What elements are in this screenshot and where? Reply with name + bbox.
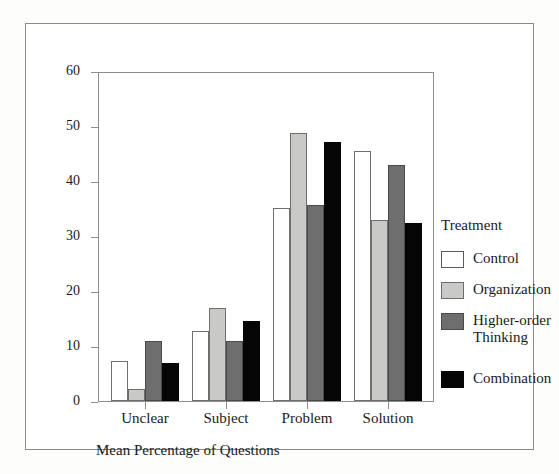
- legend-label: Higher-order Thinking: [473, 312, 559, 346]
- plot-top-rule: [98, 72, 434, 73]
- figure-caption: Mean Percentage of Questions: [96, 442, 280, 459]
- y-tick: 60: [91, 72, 98, 73]
- legend-entries: ControlOrganizationHigher-order Thinking…: [441, 250, 559, 388]
- legend-label: Organization: [473, 281, 551, 298]
- y-tick-label: 10: [66, 338, 80, 354]
- y-tick: 10: [91, 347, 98, 348]
- figure-container: 0102030405060 UnclearSubjectProblemSolut…: [0, 0, 559, 474]
- legend-label: Combination: [473, 370, 551, 387]
- bar-problem-control: [273, 208, 290, 401]
- y-tick-label: 40: [66, 173, 80, 189]
- y-tick: 50: [91, 127, 98, 128]
- legend-swatch-icon: [441, 251, 464, 268]
- y-tick: 40: [91, 182, 98, 183]
- bar-solution-combination: [405, 223, 422, 401]
- legend-title: Treatment: [441, 217, 559, 234]
- legend: Treatment ControlOrganizationHigher-orde…: [441, 217, 559, 401]
- bar-solution-higher-order-thinking: [388, 165, 405, 401]
- legend-swatch-icon: [441, 371, 464, 388]
- bar-unclear-organization: [128, 389, 145, 401]
- plot-area: 0102030405060: [98, 72, 434, 402]
- legend-swatch-icon: [441, 313, 464, 330]
- y-axis-line: [98, 72, 99, 402]
- figure-frame: 0102030405060 UnclearSubjectProblemSolut…: [25, 23, 534, 450]
- bar-subject-organization: [209, 308, 226, 402]
- bar-subject-higher-order-thinking: [226, 341, 243, 402]
- bar-problem-higher-order-thinking: [307, 205, 324, 401]
- y-tick-label: 50: [66, 118, 80, 134]
- legend-entry-higher-order-thinking[interactable]: Higher-order Thinking: [441, 312, 559, 346]
- y-tick: 30: [91, 237, 98, 238]
- x-tick: [388, 402, 389, 409]
- x-axis-line: [98, 401, 434, 402]
- bar-solution-control: [354, 151, 371, 401]
- legend-swatch-icon: [441, 282, 464, 299]
- y-tick-label: 30: [66, 228, 80, 244]
- bar-unclear-control: [111, 361, 128, 401]
- y-tick-label: 20: [66, 283, 80, 299]
- bar-solution-organization: [371, 220, 388, 401]
- y-tick: 0: [91, 402, 98, 403]
- x-tick: [145, 402, 146, 409]
- x-tick: [307, 402, 308, 409]
- plot-right-rule: [433, 72, 434, 402]
- legend-entry-combination[interactable]: Combination: [441, 370, 559, 388]
- y-tick-label: 0: [73, 393, 80, 409]
- x-tick: [226, 402, 227, 409]
- legend-label: Control: [473, 250, 519, 267]
- bar-subject-combination: [243, 321, 260, 401]
- legend-entry-organization[interactable]: Organization: [441, 281, 559, 299]
- x-axis-label-solution: Solution: [338, 410, 438, 427]
- bar-problem-combination: [324, 142, 341, 401]
- legend-entry-control[interactable]: Control: [441, 250, 559, 268]
- y-tick: 20: [91, 292, 98, 293]
- bar-unclear-combination: [162, 363, 179, 401]
- bar-unclear-higher-order-thinking: [145, 341, 162, 402]
- y-tick-label: 60: [66, 63, 80, 79]
- bar-subject-control: [192, 331, 209, 401]
- bar-problem-organization: [290, 133, 307, 401]
